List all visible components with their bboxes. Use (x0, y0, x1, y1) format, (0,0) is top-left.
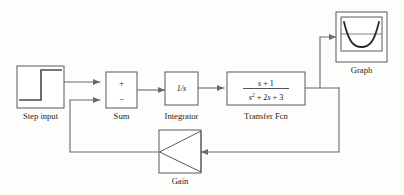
transfer-den-term2-var: s (267, 93, 270, 102)
transfer-den-term1-exp: 2 (252, 92, 255, 98)
block-sum[interactable]: + − (106, 72, 137, 108)
graph-label: Graph (351, 65, 373, 75)
transfer-den-op1: + (257, 93, 262, 102)
transfer-den-op2: + (273, 93, 278, 102)
block-step-input[interactable] (17, 66, 64, 108)
integrator-label: Integrator (165, 111, 199, 121)
block-integrator[interactable]: 1/s (165, 72, 198, 105)
wire-branch-to-graph (320, 34, 336, 88)
wire-integrator-to-transfer (198, 85, 224, 91)
transfer-numerator: s+1 (258, 79, 274, 88)
transfer-num-const: 1 (270, 79, 274, 88)
block-gain[interactable] (159, 130, 201, 173)
transfer-num-op: + (263, 79, 268, 88)
block-transfer-fcn[interactable]: s+1 s2+2s+3 (227, 72, 305, 105)
sum-label: Sum (114, 111, 130, 121)
transfer-fcn-label: Transfer Fcn (244, 111, 289, 121)
block-graph[interactable] (336, 12, 387, 62)
block-diagram-canvas: Step input + − Sum 1/s Integrator s+1 s2… (0, 0, 404, 195)
sum-minus-sign: − (119, 94, 124, 104)
step-input-label: Step input (23, 111, 59, 121)
integrator-expression: 1/s (177, 84, 187, 93)
sum-plus-sign: + (119, 78, 124, 88)
transfer-den-term3-const: 3 (279, 93, 283, 102)
wire-sum-to-integrator (137, 87, 165, 93)
wire-step-to-sum (64, 79, 100, 85)
block-diagram-svg: Step input + − Sum 1/s Integrator s+1 s2… (0, 0, 404, 195)
transfer-num-var: s (258, 79, 261, 88)
gain-label: Gain (172, 176, 189, 186)
